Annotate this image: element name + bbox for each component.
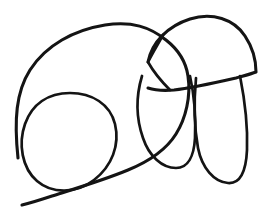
sketch-drawing [0, 0, 273, 218]
sketch-canvas: Untitled hand-drawn sketch [0, 0, 273, 218]
